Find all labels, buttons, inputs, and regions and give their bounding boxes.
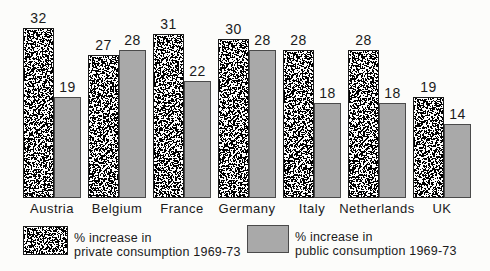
bar-private-netherlands <box>348 50 379 198</box>
bar-private-france <box>153 34 184 198</box>
bar-column-private-italy: 28 <box>283 33 314 198</box>
bar-private-germany <box>218 39 249 198</box>
bar-column-private-belgium: 27 <box>88 38 119 198</box>
bar-column-public-netherlands: 18 <box>379 86 406 198</box>
bar-value-label: 18 <box>384 86 400 101</box>
bar-public-austria <box>54 97 81 198</box>
bar-column-private-uk: 19 <box>413 80 444 198</box>
bar-public-uk <box>444 124 471 198</box>
legend-public-line1: % increase in <box>295 231 457 245</box>
chart-plot-area: 3219272831223028281828181914 <box>0 0 490 198</box>
bar-public-germany <box>249 50 276 198</box>
bar-group-austria: 3219 <box>23 11 81 198</box>
legend-public-gray-swatch <box>247 225 289 253</box>
legend-private-label: % increase in private consumption 1969-7… <box>74 226 241 259</box>
bar-public-belgium <box>119 50 146 198</box>
bar-column-private-germany: 30 <box>218 22 249 198</box>
bar-value-label: 28 <box>254 33 270 48</box>
bar-column-public-uk: 14 <box>444 107 471 198</box>
bar-value-label: 19 <box>420 80 436 95</box>
bar-value-label: 22 <box>189 64 205 79</box>
legend-public-label: % increase in public consumption 1969-73 <box>295 225 457 258</box>
bar-value-label: 32 <box>30 11 46 26</box>
bar-public-france <box>184 81 211 198</box>
bar-value-label: 28 <box>124 33 140 48</box>
figure-page: { "figure": { "background": "#fcfcfa", "… <box>0 0 490 271</box>
bar-private-belgium <box>88 55 119 198</box>
bar-private-italy <box>283 50 314 198</box>
bar-chart-figure: 3219272831223028281828181914 % increase … <box>0 0 490 271</box>
bar-column-private-netherlands: 28 <box>348 33 379 198</box>
category-label-belgium: Belgium <box>92 201 142 216</box>
bar-column-public-austria: 19 <box>54 80 81 198</box>
legend-public-line2: public consumption 1969-73 <box>295 245 457 259</box>
bar-value-label: 18 <box>319 86 335 101</box>
bar-column-private-austria: 32 <box>23 11 54 198</box>
bar-column-public-germany: 28 <box>249 33 276 198</box>
legend-private-speckle-swatch <box>23 226 68 255</box>
legend-private-line1: % increase in <box>74 232 241 246</box>
legend-item-public: % increase in public consumption 1969-73 <box>247 225 457 258</box>
bar-column-public-belgium: 28 <box>119 33 146 198</box>
bar-group-france: 3122 <box>153 17 211 198</box>
bar-value-label: 27 <box>95 38 111 53</box>
bar-group-italy: 2818 <box>283 33 341 198</box>
bar-value-label: 30 <box>225 22 241 37</box>
bar-column-public-italy: 18 <box>314 86 341 198</box>
bar-private-uk <box>413 97 444 198</box>
bar-value-label: 19 <box>59 80 75 95</box>
bar-column-public-france: 22 <box>184 64 211 198</box>
bar-value-label: 31 <box>160 17 176 32</box>
bar-public-netherlands <box>379 103 406 198</box>
bar-public-italy <box>314 103 341 198</box>
bar-group-belgium: 2728 <box>88 33 146 198</box>
category-label-austria: Austria <box>30 201 74 216</box>
bar-group-germany: 3028 <box>218 22 276 198</box>
bar-column-private-france: 31 <box>153 17 184 198</box>
legend-private-line2: private consumption 1969-73 <box>74 246 241 260</box>
bar-group-netherlands: 2818 <box>348 33 406 198</box>
bar-value-label: 28 <box>355 33 371 48</box>
bar-private-austria <box>23 28 54 198</box>
category-label-uk: UK <box>432 201 451 216</box>
legend-item-private: % increase in private consumption 1969-7… <box>23 226 241 259</box>
bar-group-uk: 1914 <box>413 80 471 198</box>
category-label-netherlands: Netherlands <box>339 201 415 216</box>
bar-value-label: 28 <box>290 33 306 48</box>
category-label-france: France <box>160 201 203 216</box>
category-label-italy: Italy <box>299 201 325 216</box>
bar-value-label: 14 <box>449 107 465 122</box>
category-label-germany: Germany <box>219 201 276 216</box>
